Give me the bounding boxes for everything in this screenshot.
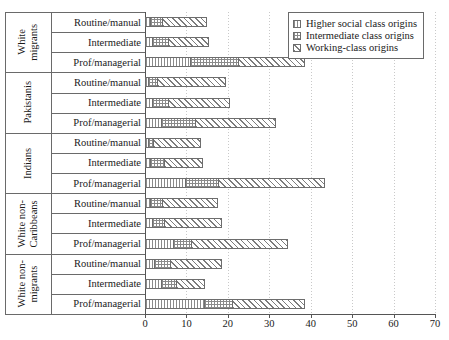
bar-segment: [145, 118, 162, 128]
bar-segment: [145, 178, 186, 188]
category-label: Routine/manual: [51, 133, 145, 153]
bar-segment: [161, 279, 178, 289]
chart-container: 010203040506070 White migrantsRoutine/ma…: [0, 0, 449, 340]
group-label: White migrants: [5, 12, 51, 72]
bar: [145, 299, 305, 309]
category-label: Routine/manual: [51, 12, 145, 32]
bar-segment: [162, 17, 208, 27]
bar-segment: [145, 57, 191, 67]
group-separator: [5, 72, 145, 73]
category-label: Intermediate: [51, 153, 145, 173]
bar-segment: [204, 299, 233, 309]
category-label: Routine/manual: [51, 193, 145, 213]
legend-item-working: Working-class origins: [293, 42, 417, 53]
x-tick-label: 50: [337, 318, 367, 329]
bar: [145, 198, 218, 208]
bar-segment: [152, 98, 169, 108]
legend-item-intermediate: Intermediate class origins: [293, 30, 417, 41]
category-label: Intermediate: [51, 93, 145, 113]
bar-segment: [145, 239, 174, 249]
category-label: Prof/managerial: [51, 294, 145, 314]
bar: [145, 158, 203, 168]
group-separator: [5, 314, 145, 315]
y-axis-labels: White migrantsRoutine/manualIntermediate…: [5, 12, 145, 314]
bar-segment: [154, 259, 171, 269]
group-label: Pakistanis: [5, 72, 51, 132]
category-label: Routine/manual: [51, 72, 145, 92]
bar-segment: [153, 138, 201, 148]
bar: [145, 77, 226, 87]
y-axis-group: PakistanisRoutine/manualIntermediateProf…: [5, 72, 145, 132]
category-column: Routine/manualIntermediateProf/manageria…: [51, 254, 145, 314]
category-label: Intermediate: [51, 213, 145, 233]
group-separator: [5, 12, 145, 13]
x-tick-label: 60: [379, 318, 409, 329]
chart-legend: Higher social class origins Intermediate…: [288, 12, 424, 59]
bar-segment: [145, 299, 205, 309]
category-label: Prof/managerial: [51, 233, 145, 253]
legend-label-higher: Higher social class origins: [306, 18, 417, 29]
category-label: Prof/managerial: [51, 173, 145, 193]
bar-segment: [190, 57, 240, 67]
bar-segment: [152, 37, 169, 47]
bar-segment: [161, 118, 196, 128]
category-label: Prof/managerial: [51, 113, 145, 133]
bar-segment: [232, 299, 305, 309]
legend-label-working: Working-class origins: [306, 42, 398, 53]
x-tick-label: 10: [171, 318, 201, 329]
bar-segment: [176, 279, 205, 289]
x-tick-label: 0: [130, 318, 160, 329]
legend-swatch-working-icon: [293, 44, 301, 52]
bar-segment: [162, 198, 218, 208]
bar: [145, 98, 230, 108]
bar: [145, 218, 222, 228]
y-axis-group: White non- migrantsRoutine/manualInterme…: [5, 254, 145, 314]
bar-segment: [168, 98, 230, 108]
category-column: Routine/manualIntermediateProf/manageria…: [51, 193, 145, 253]
x-tick-label: 20: [213, 318, 243, 329]
bar: [145, 239, 288, 249]
category-label: Routine/manual: [51, 254, 145, 274]
group-separator: [5, 254, 145, 255]
legend-swatch-higher-icon: [293, 20, 301, 28]
y-axis-group: IndiansRoutine/manualIntermediateProf/ma…: [5, 133, 145, 193]
bar-segment: [170, 259, 222, 269]
bar: [145, 37, 209, 47]
category-label: Intermediate: [51, 32, 145, 52]
group-label: White non- migrants: [5, 254, 51, 314]
category-column: Routine/manualIntermediateProf/manageria…: [51, 133, 145, 193]
category-label: Intermediate: [51, 274, 145, 294]
y-axis-group: White migrantsRoutine/manualIntermediate…: [5, 12, 145, 72]
y-axis-group: White non- CaribbeansRoutine/manualInter…: [5, 193, 145, 253]
x-tick-label: 30: [254, 318, 284, 329]
bar: [145, 118, 276, 128]
bar-segment: [185, 178, 218, 188]
bar-segment: [164, 218, 222, 228]
x-tick-label: 70: [420, 318, 449, 329]
category-column: Routine/manualIntermediateProf/manageria…: [51, 12, 145, 72]
x-axis-line: [145, 314, 435, 315]
group-separator: [5, 133, 145, 134]
bar-segment: [191, 239, 288, 249]
bar: [145, 259, 222, 269]
bar-segment: [145, 279, 162, 289]
group-label: White non- Caribbeans: [5, 193, 51, 253]
bar-segment: [218, 178, 326, 188]
bar: [145, 279, 205, 289]
bar-segment: [164, 158, 203, 168]
bar: [145, 178, 325, 188]
bar: [145, 138, 201, 148]
legend-item-higher: Higher social class origins: [293, 18, 417, 29]
bar: [145, 17, 207, 27]
bar-segment: [157, 77, 225, 87]
bar-segment: [195, 118, 276, 128]
bar-segment: [173, 239, 192, 249]
category-label: Prof/managerial: [51, 52, 145, 72]
legend-swatch-intermediate-icon: [293, 32, 301, 40]
bar: [145, 57, 305, 67]
group-separator: [5, 193, 145, 194]
group-label: Indians: [5, 133, 51, 193]
category-column: Routine/manualIntermediateProf/manageria…: [51, 72, 145, 132]
legend-label-intermediate: Intermediate class origins: [306, 30, 414, 41]
bar-segment: [168, 37, 209, 47]
